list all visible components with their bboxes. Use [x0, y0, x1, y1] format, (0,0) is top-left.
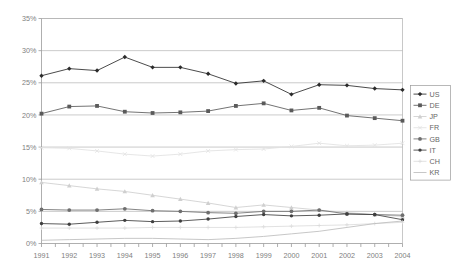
data-point-de [317, 106, 321, 110]
legend-box [411, 86, 451, 181]
data-point-gb [317, 208, 321, 212]
x-tick-label: 1997 [200, 251, 216, 260]
y-tick-label: 15% [22, 143, 37, 152]
data-point-us [261, 79, 265, 83]
y-tick-label: 20% [22, 111, 37, 120]
data-point-gb [67, 208, 71, 212]
x-tick-label: 1992 [61, 251, 77, 260]
data-point-gb [206, 211, 210, 215]
y-tick-label: 5% [26, 207, 37, 216]
legend-label-kr: KR [430, 168, 440, 177]
series-line-us [42, 57, 403, 94]
data-point-it [206, 217, 209, 220]
data-point-ch [151, 226, 155, 230]
data-point-us [123, 55, 127, 59]
data-point-us [400, 88, 404, 92]
x-tick-label: 1991 [34, 251, 50, 260]
x-tick-label: 2003 [367, 251, 383, 260]
data-point-ch [40, 226, 44, 230]
chart-canvas: 0%5%10%15%20%25%30%35% 19911992199319941… [0, 0, 460, 280]
data-point-it [95, 221, 98, 224]
legend-label-ch: CH [430, 157, 440, 166]
data-point-gb [123, 207, 127, 211]
y-tick-label: 0% [26, 239, 37, 248]
x-tick-label: 2004 [395, 251, 411, 260]
x-tick-label: 2001 [311, 251, 327, 260]
series-gb [40, 207, 405, 217]
data-point-ch [95, 226, 99, 230]
legend-marker-gb [418, 137, 422, 141]
x-tick-label: 2000 [283, 251, 299, 260]
data-point-us [206, 72, 210, 76]
y-tick-label: 35% [22, 14, 37, 23]
data-point-us [150, 65, 154, 69]
data-point-ch [67, 226, 71, 230]
data-point-de [67, 105, 71, 109]
data-point-de [401, 119, 405, 123]
data-point-gb [178, 209, 182, 213]
series-us [39, 55, 404, 97]
data-point-it [151, 220, 154, 223]
data-point-ch [262, 225, 266, 229]
data-point-us [39, 74, 43, 78]
data-point-ch [234, 226, 238, 230]
series-it [40, 212, 404, 226]
y-tick-label: 30% [22, 46, 37, 55]
data-point-gb [95, 208, 99, 212]
data-point-de [262, 101, 266, 105]
data-point-us [345, 83, 349, 87]
x-tick-label: 1999 [256, 251, 272, 260]
legend-label-it: IT [430, 146, 437, 155]
data-point-de [151, 111, 155, 115]
data-point-ch [206, 226, 210, 230]
x-axis-tick-labels: 1991199219931994199519961997199819992000… [34, 251, 411, 260]
legend-label-de: DE [430, 101, 440, 110]
x-tick-label: 2002 [339, 251, 355, 260]
data-point-de [178, 110, 182, 114]
data-point-gb [234, 211, 238, 215]
legend-label-jp: JP [430, 112, 439, 121]
data-point-us [289, 92, 293, 96]
y-tick-label: 25% [22, 78, 37, 87]
legend-label-us: US [430, 90, 440, 99]
line-chart: 0%5%10%15%20%25%30%35% 19911992199319941… [0, 0, 460, 280]
data-point-de [40, 112, 44, 116]
data-point-gb [290, 209, 294, 213]
data-point-de [95, 104, 99, 108]
data-point-ch [178, 226, 182, 230]
y-axis-tick-labels: 0%5%10%15%20%25%30%35% [22, 14, 37, 248]
data-point-de [206, 109, 210, 113]
series-fr [40, 141, 405, 158]
data-point-gb [151, 209, 155, 213]
data-point-it [345, 212, 348, 215]
data-point-us [234, 81, 238, 85]
data-point-it [40, 222, 43, 225]
x-axis-tick-marks [42, 244, 403, 248]
data-point-de [345, 114, 349, 118]
data-point-it [317, 214, 320, 217]
data-point-us [95, 68, 99, 72]
x-tick-label: 1998 [228, 251, 244, 260]
data-point-it [179, 219, 182, 222]
series-de [40, 101, 405, 122]
data-point-de [373, 116, 377, 120]
data-point-de [234, 104, 238, 108]
series-ch [40, 220, 405, 230]
data-point-gb [40, 208, 44, 212]
series-line-kr [42, 221, 403, 240]
data-point-ch [123, 226, 127, 230]
data-point-us [178, 65, 182, 69]
x-tick-label: 1993 [89, 251, 105, 260]
legend-label-gb: GB [430, 135, 441, 144]
data-point-us [317, 83, 321, 87]
series-kr [42, 221, 403, 240]
data-point-ch [317, 224, 321, 228]
legend-marker-it [418, 148, 421, 151]
data-point-it [68, 223, 71, 226]
x-tick-label: 1994 [117, 251, 133, 260]
data-point-de [123, 110, 127, 114]
data-point-it [373, 213, 376, 216]
data-point-gb [262, 209, 266, 213]
chart-legend: USDEJPFRGBITCHKR [411, 86, 451, 181]
data-point-ch [290, 224, 294, 228]
